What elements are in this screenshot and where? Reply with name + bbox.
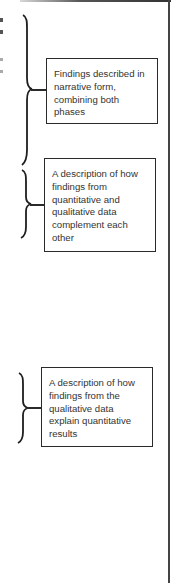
cropped-text-fragment (0, 30, 3, 34)
top-border-line (20, 0, 171, 2)
cropped-text-fragment (0, 18, 3, 22)
connector-line-2 (30, 204, 44, 206)
callout-text: A description of how findings from the q… (49, 377, 135, 439)
cropped-text-fragment (0, 70, 3, 73)
callout-complement: A description of how findings from quant… (44, 158, 156, 252)
callout-text: Findings described in narrative form, co… (54, 68, 145, 117)
callout-text: A description of how findings from quant… (52, 168, 138, 243)
right-border-line (168, 0, 170, 583)
cropped-text-fragment (0, 58, 3, 61)
connector-line-3 (27, 407, 41, 409)
callout-narrative: Findings described in narrative form, co… (46, 58, 158, 124)
connector-line-1 (31, 89, 46, 91)
callout-explain: A description of how findings from the q… (41, 367, 153, 447)
